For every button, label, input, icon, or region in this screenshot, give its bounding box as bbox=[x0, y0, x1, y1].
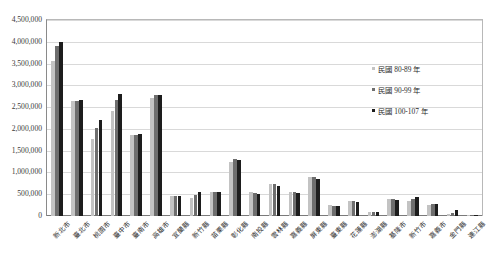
bar bbox=[455, 210, 459, 216]
bar bbox=[296, 193, 300, 216]
legend-swatch-icon bbox=[372, 67, 375, 70]
x-axis-tick-label: 宜蘭縣 bbox=[169, 218, 191, 240]
bar-group bbox=[249, 20, 261, 216]
bar bbox=[138, 134, 142, 216]
x-axis-tick-label: 金門縣 bbox=[446, 218, 468, 240]
legend-swatch-icon bbox=[372, 109, 375, 112]
x-axis-tick-label: 新北市 bbox=[50, 218, 72, 240]
bar bbox=[198, 192, 202, 216]
bar bbox=[237, 160, 241, 216]
y-axis-tick-label: 2,500,000 bbox=[12, 103, 42, 111]
bar bbox=[99, 120, 103, 216]
x-axis-tick-label: 苗栗縣 bbox=[209, 218, 231, 240]
bar-group bbox=[348, 20, 360, 216]
bar bbox=[376, 212, 380, 216]
bar-group bbox=[130, 20, 142, 216]
x-axis-tick-label: 嘉義市 bbox=[426, 218, 448, 240]
legend-label: 民國 80-89 年 bbox=[378, 63, 420, 74]
x-axis-tick-label: 臺北市 bbox=[70, 218, 92, 240]
bar bbox=[474, 215, 478, 216]
legend-item: 民國 80-89 年 bbox=[372, 58, 478, 79]
x-axis-tick-label: 新竹縣 bbox=[189, 218, 211, 240]
x-axis-tick-label: 屏東縣 bbox=[307, 218, 329, 240]
bar-group bbox=[229, 20, 241, 216]
bar bbox=[336, 206, 340, 216]
legend: 民國 80-89 年 民國 90-99 年 民國 100-107 年 bbox=[372, 58, 478, 121]
y-axis-tick-label: 4,000,000 bbox=[12, 38, 42, 46]
bar-group bbox=[111, 20, 123, 216]
bar bbox=[395, 200, 399, 216]
bar bbox=[316, 179, 320, 216]
bar-group bbox=[308, 20, 320, 216]
x-axis-tick-label: 雲林縣 bbox=[268, 218, 290, 240]
bar-group bbox=[71, 20, 83, 216]
bar bbox=[118, 94, 122, 216]
x-axis-tick-label: 基隆市 bbox=[386, 218, 408, 240]
bar bbox=[217, 192, 221, 216]
x-axis-tick-label: 臺南市 bbox=[129, 218, 151, 240]
x-axis-tick-label: 花蓮縣 bbox=[347, 218, 369, 240]
bar bbox=[277, 186, 281, 216]
population-bar-chart: 0500,0001,000,0001,500,0002,000,0002,500… bbox=[0, 0, 489, 267]
y-axis-tick-label: 2,000,000 bbox=[12, 125, 42, 133]
x-axis-tick-label: 澎湖縣 bbox=[367, 218, 389, 240]
x-axis-tick-label: 桃園市 bbox=[90, 218, 112, 240]
y-axis-tick-label: 4,500,000 bbox=[12, 16, 42, 24]
x-axis-tick-label: 嘉義縣 bbox=[288, 218, 310, 240]
bar bbox=[415, 197, 419, 216]
x-axis-tick-label: 南投縣 bbox=[248, 218, 270, 240]
bar-group bbox=[170, 20, 182, 216]
bar-group bbox=[210, 20, 222, 216]
x-axis-tick-label: 高雄市 bbox=[149, 218, 171, 240]
y-axis-tick-label: 500,000 bbox=[17, 190, 42, 198]
bar-group bbox=[269, 20, 281, 216]
bar bbox=[59, 42, 63, 216]
y-axis-tick-label: 0 bbox=[38, 212, 42, 220]
x-axis-tick-label: 連江縣 bbox=[466, 218, 488, 240]
y-axis-tick-label: 3,500,000 bbox=[12, 60, 42, 68]
bar bbox=[257, 194, 261, 216]
bar-group bbox=[289, 20, 301, 216]
legend-label: 民國 100-107 年 bbox=[378, 105, 427, 116]
legend-label: 民國 90-99 年 bbox=[378, 84, 420, 95]
bar bbox=[435, 204, 439, 216]
legend-item: 民國 100-107 年 bbox=[372, 100, 478, 121]
legend-swatch-icon bbox=[372, 88, 375, 91]
x-axis-tick-label: 臺中市 bbox=[110, 218, 132, 240]
y-axis-tick-label: 1,000,000 bbox=[12, 168, 42, 176]
bar bbox=[356, 202, 360, 216]
x-axis-tick-label: 新竹市 bbox=[406, 218, 428, 240]
x-axis-tick-label: 彰化縣 bbox=[228, 218, 250, 240]
bar-group bbox=[91, 20, 103, 216]
bar bbox=[158, 95, 162, 216]
x-axis-tick-label: 臺東縣 bbox=[327, 218, 349, 240]
y-axis-tick-label: 1,500,000 bbox=[12, 147, 42, 155]
legend-item: 民國 90-99 年 bbox=[372, 79, 478, 100]
bar-group bbox=[51, 20, 63, 216]
bar-group bbox=[150, 20, 162, 216]
bar-group bbox=[190, 20, 202, 216]
bar bbox=[178, 196, 182, 216]
bar-group bbox=[328, 20, 340, 216]
y-axis-tick-label: 3,000,000 bbox=[12, 81, 42, 89]
bar bbox=[79, 100, 83, 216]
x-axis-labels: 新北市臺北市桃園市臺中市臺南市高雄市宜蘭縣新竹縣苗栗縣彰化縣南投縣雲林縣嘉義縣屏… bbox=[47, 218, 482, 267]
y-axis: 0500,0001,000,0001,500,0002,000,0002,500… bbox=[0, 0, 44, 216]
